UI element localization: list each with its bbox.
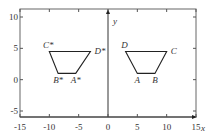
- labels: -15-10-5051015-50510ABCDA*B*C*D*: [9, 12, 201, 132]
- y-tick-label: 5: [14, 43, 19, 53]
- x-tick-label: 5: [135, 122, 140, 132]
- trapezoid-shape: [126, 51, 167, 73]
- x-tick-label: 15: [192, 122, 202, 132]
- x-axis-label: x: [200, 123, 205, 133]
- x-tick-label: 10: [162, 122, 172, 132]
- point-label: D*: [93, 46, 105, 56]
- x-tick-label: -10: [43, 122, 55, 132]
- point-label: D: [120, 40, 128, 50]
- point-label: B: [152, 75, 158, 85]
- x-tick-label: -15: [14, 122, 26, 132]
- chart-svg: -15-10-5051015-50510ABCDA*B*C*D* x y: [0, 0, 208, 140]
- trapezoid-shape: [49, 51, 90, 73]
- y-tick-label: -5: [11, 106, 19, 116]
- x-tick-label: -5: [75, 122, 83, 132]
- point-label: C*: [43, 40, 54, 50]
- y-axis-label: y: [112, 16, 117, 26]
- point-label: B*: [53, 75, 63, 85]
- point-label: C: [171, 46, 178, 56]
- point-label: A*: [70, 75, 81, 85]
- y-tick-label: 10: [9, 12, 19, 22]
- x-tick-label: 0: [106, 122, 111, 132]
- point-label: A: [134, 75, 141, 85]
- y-tick-label: 0: [14, 75, 19, 85]
